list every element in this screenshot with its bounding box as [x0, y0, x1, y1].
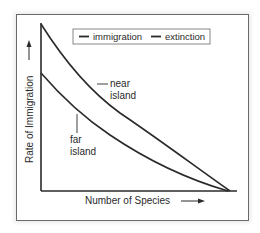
y-axis-label: Rate of Immigration [24, 76, 35, 163]
near-island-curve [41, 24, 230, 191]
legend-label-immigration: immigration [93, 31, 142, 42]
far-island-label-line1: far [70, 134, 82, 145]
legend-label-extinction: extinction [165, 31, 205, 42]
chart-svg: immigration extinction near island far i… [0, 0, 260, 233]
near-island-label-line2: island [110, 90, 136, 101]
x-axis-arrow-icon [181, 199, 205, 204]
y-axis-arrow-icon [27, 40, 32, 60]
near-island-label-line1: near [110, 78, 131, 89]
legend: immigration extinction [73, 29, 210, 44]
x-axis-label: Number of Species [85, 195, 170, 206]
far-island-label-line2: island [70, 146, 96, 157]
